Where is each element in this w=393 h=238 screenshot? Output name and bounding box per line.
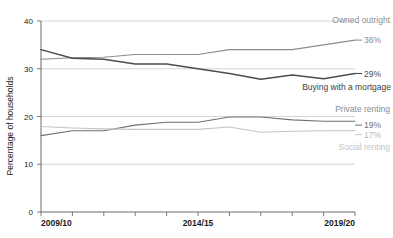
gridlines: [41, 21, 355, 164]
y-axis: 40 30 20 10 0: [24, 17, 41, 217]
y-tick-label-30: 30: [24, 65, 33, 74]
value-owned-outright: 36%: [364, 35, 381, 45]
line-chart: Percentage of households 40 30 20 10 0: [0, 0, 393, 238]
label-mortgage: Buying with a mortgage: [302, 82, 391, 92]
y-tick-label-0: 0: [29, 208, 34, 217]
y-tick-label-10: 10: [24, 160, 33, 169]
label-social-renting: Social renting: [338, 142, 390, 152]
x-tick-label-start: 2009/10: [41, 218, 72, 228]
value-private-renting: 19%: [364, 120, 381, 130]
x-tickmarks: [41, 212, 355, 216]
series-line-social-renting: [41, 127, 355, 133]
series-line-private-renting: [41, 117, 355, 136]
x-tick-label-end: 2019/20: [324, 218, 355, 228]
series-line-owned-outright: [41, 40, 355, 59]
label-owned-outright: Owned outright: [332, 15, 390, 25]
y-tick-label-20: 20: [24, 113, 33, 122]
x-axis: 2009/10 2014/15 2019/20: [41, 212, 355, 228]
y-axis-title: Percentage of households: [5, 77, 15, 176]
chart-svg: Percentage of households 40 30 20 10 0: [0, 0, 393, 238]
label-private-renting: Private renting: [335, 104, 390, 114]
value-mortgage: 29%: [364, 69, 381, 79]
y-tick-label-40: 40: [24, 17, 33, 26]
x-tick-label-mid: 2014/15: [183, 218, 214, 228]
value-social-renting: 17%: [364, 130, 381, 140]
